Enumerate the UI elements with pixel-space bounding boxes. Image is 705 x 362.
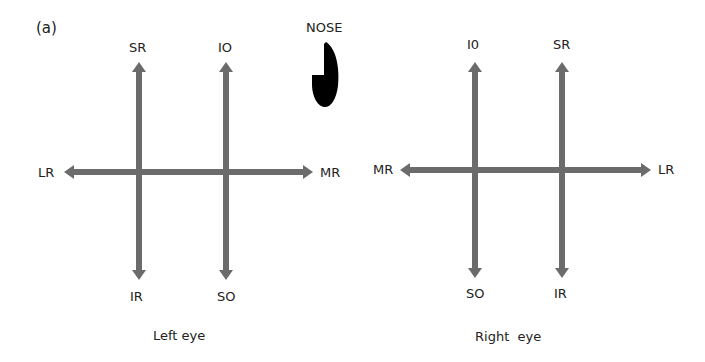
left-eye-caption: Left eye	[153, 328, 205, 343]
right-mr-label: MR	[373, 162, 393, 177]
right-lr-label: LR	[658, 162, 674, 177]
right-ir-label: IR	[554, 286, 567, 301]
eye-muscle-diagram	[0, 0, 705, 362]
left-sr-label: SR	[129, 40, 146, 55]
nose-label: NOSE	[306, 20, 342, 35]
right-eye-arrows	[400, 62, 651, 278]
panel-label: (a)	[36, 21, 57, 36]
left-mr-label: MR	[320, 165, 340, 180]
left-ir-label: IR	[130, 289, 143, 304]
left-so-label: SO	[217, 289, 235, 304]
left-lr-label: LR	[38, 165, 54, 180]
right-sr-label: SR	[553, 37, 570, 52]
left-io-label: IO	[218, 40, 232, 55]
right-so-label: SO	[466, 286, 484, 301]
right-io-label: I0	[467, 37, 479, 52]
right-eye-caption: Right eye	[475, 329, 541, 344]
nose-icon	[312, 42, 339, 107]
left-eye-arrows	[64, 62, 313, 280]
